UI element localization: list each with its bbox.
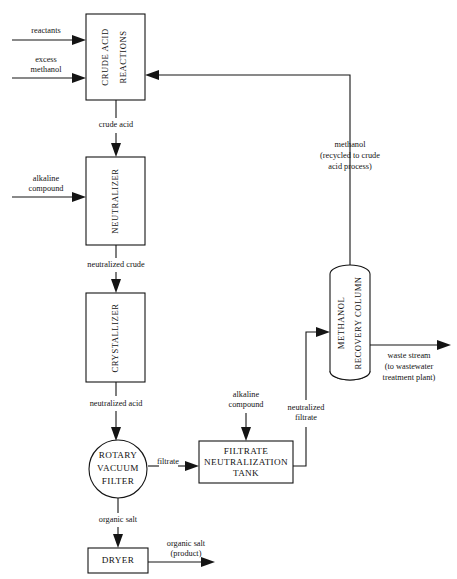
- stream-label-neutralized-filtrate-line1: neutralized: [288, 403, 326, 412]
- stream-excess-methanol: [12, 73, 86, 83]
- unit-neutralizer[interactable]: NEUTRALIZER: [86, 157, 145, 245]
- stream-label-waste-stream-line3: treatment plant): [383, 373, 436, 382]
- stream-label-waste-stream-line2: (to wastewater: [385, 362, 434, 371]
- stream-label-waste-stream-line1: waste stream: [387, 351, 431, 360]
- stream-label-excess-methanol-line1: excess: [35, 55, 57, 64]
- unit-rotary-vacuum-filter[interactable]: ROTARY VACUUM FILTER: [89, 440, 147, 498]
- stream-alkaline-compound-neutralizer: [12, 192, 86, 202]
- unit-label-filtrate-tank-line1: FILTRATE: [224, 446, 268, 456]
- unit-label-methanol-column-line1: METHANOL: [336, 297, 346, 350]
- unit-filtrate-neutralization-tank[interactable]: FILTRATE NEUTRALIZATION TANK: [199, 441, 293, 483]
- stream-reactants: [12, 35, 86, 45]
- stream-label-neutralized-acid: neutralized acid: [90, 399, 144, 408]
- unit-label-filtrate-tank-line2: NEUTRALIZATION: [204, 457, 288, 467]
- unit-crystallizer[interactable]: CRYSTALLIZER: [86, 293, 145, 382]
- stream-label-reactants: reactants: [31, 26, 60, 35]
- unit-label-crude-acid-reactions-line1: CRUDE ACID: [100, 28, 110, 85]
- stream-neutralized-acid-line: [111, 382, 121, 441]
- stream-neutralized-filtrate-line: [293, 327, 330, 466]
- stream-alkaline-compound-tank: [241, 413, 251, 441]
- stream-label-organic-salt-product-line2: (product): [171, 549, 202, 558]
- unit-label-neutralizer: NEUTRALIZER: [110, 168, 120, 233]
- stream-label-neutralized-filtrate-line2: filtrate: [295, 413, 317, 422]
- unit-dryer[interactable]: DRYER: [88, 548, 148, 573]
- unit-label-crude-acid-reactions-line2: REACTIONS: [118, 30, 128, 83]
- flowsheet-canvas: CRUDE ACID REACTIONS NEUTRALIZER CRYSTAL…: [0, 0, 457, 579]
- stream-label-alkaline-compound-tank-line2: compound: [228, 400, 264, 409]
- stream-label-organic-salt-product-line1: organic salt: [167, 539, 206, 548]
- stream-label-methanol-recycle-line1: methanol: [335, 140, 367, 149]
- unit-label-rotary-vacuum-filter-line1: ROTARY: [99, 450, 138, 460]
- stream-organic-salt-product-line: [148, 557, 215, 567]
- stream-methanol-recycle-line: [145, 70, 350, 266]
- stream-label-filtrate: filtrate: [157, 457, 179, 466]
- stream-label-methanol-recycle-line3: acid process): [328, 162, 372, 171]
- stream-label-methanol-recycle-line2: (recycled to crude: [320, 151, 380, 160]
- stream-label-neutralized-crude: neutralized crude: [87, 260, 145, 269]
- stream-waste-line: [370, 340, 451, 350]
- process-flow-diagram: CRUDE ACID REACTIONS NEUTRALIZER CRYSTAL…: [0, 0, 457, 579]
- unit-label-rotary-vacuum-filter-line2: VACUUM: [97, 463, 139, 473]
- unit-methanol-recovery-column[interactable]: METHANOL RECOVERY COLUMN: [330, 265, 370, 380]
- stream-label-alkaline-compound-tank-line1: alkaline: [233, 390, 260, 399]
- unit-label-crystallizer: CRYSTALLIZER: [110, 304, 120, 373]
- stream-label-alkaline-compound-neutralizer-line2: compound: [28, 184, 64, 193]
- unit-label-rotary-vacuum-filter-line3: FILTER: [102, 476, 135, 486]
- unit-label-filtrate-tank-line3: TANK: [233, 468, 259, 478]
- unit-label-dryer: DRYER: [102, 555, 135, 565]
- stream-label-excess-methanol-line2: methanol: [31, 65, 63, 74]
- unit-crude-acid-reactions[interactable]: CRUDE ACID REACTIONS: [86, 14, 145, 100]
- unit-label-methanol-column-line2: RECOVERY COLUMN: [353, 276, 363, 369]
- stream-label-alkaline-compound-neutralizer-line1: alkaline: [33, 174, 60, 183]
- stream-label-organic-salt: organic salt: [99, 515, 138, 524]
- stream-label-crude-acid: crude acid: [99, 120, 134, 129]
- stream-neutralized-crude-line: [111, 245, 121, 293]
